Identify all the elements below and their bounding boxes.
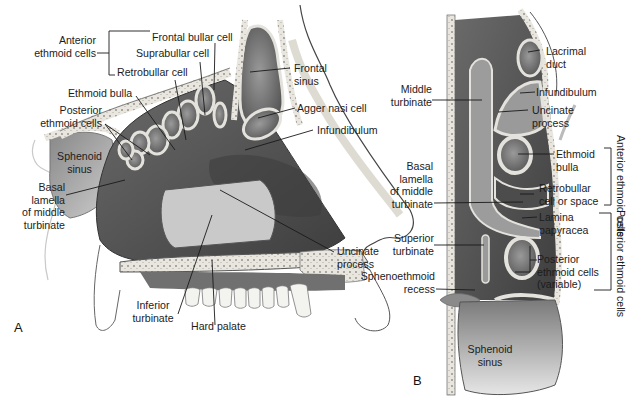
- label-line: turbinate: [376, 198, 433, 211]
- label-line: papyracea: [539, 224, 588, 237]
- panel-letter-a: A: [14, 320, 23, 335]
- label-line: Middle: [378, 83, 432, 96]
- label-posterior-ethmoid-cells-b: Posterior ethmoid cells (variable): [537, 253, 599, 291]
- label-line: Inferior: [118, 299, 188, 312]
- label-line: ethmoid cells: [30, 117, 102, 130]
- label-line: duct: [546, 58, 586, 71]
- label-line: of middle: [376, 185, 433, 198]
- label-lacrimal-duct: Lacrimal duct: [546, 45, 586, 70]
- label-line: sinus: [294, 75, 327, 88]
- label-line: Ethmoid: [556, 148, 595, 161]
- label-inferior-turbinate: Inferior turbinate: [118, 299, 188, 324]
- label-uncinate-process-b: Uncinate process: [532, 104, 574, 129]
- label-line: (variable): [537, 278, 599, 291]
- label-suprabullar-cell: Suprabullar cell: [136, 47, 209, 60]
- label-line: Posterior: [30, 104, 102, 117]
- label-line: ethmoid cells: [28, 47, 96, 60]
- label-agger-nasi-cell: Agger nasi cell: [297, 102, 367, 115]
- label-line: recess: [340, 283, 435, 296]
- label-line: process: [337, 258, 379, 271]
- label-ethmoid-bulla-b: Ethmoid bulla: [556, 148, 595, 173]
- label-retrobullar-cell-b: Retrobullar cell or space: [539, 182, 598, 207]
- label-line: Uncinate: [532, 104, 574, 117]
- label-ethmoid-bulla-a: Ethmoid bulla: [68, 87, 132, 100]
- label-sphenoid-sinus-a: Sphenoid sinus: [52, 150, 107, 175]
- label-line: bulla: [556, 161, 595, 174]
- label-line: Superior: [380, 232, 434, 245]
- label-line: Lacrimal: [546, 45, 586, 58]
- label-middle-turbinate: Middle turbinate: [378, 83, 432, 108]
- label-line: Anterior: [28, 34, 96, 47]
- label-line: Basal: [8, 181, 65, 194]
- label-line: lamella: [376, 173, 433, 186]
- label-line: of middle: [8, 206, 65, 219]
- label-line: Frontal: [294, 62, 327, 75]
- label-superior-turbinate: Superior turbinate: [380, 232, 434, 257]
- label-line: process: [532, 117, 574, 130]
- label-uncinate-process-a: Uncinate process: [337, 245, 379, 270]
- label-line: Lamina: [539, 211, 588, 224]
- label-line: Sphenoid: [460, 343, 520, 356]
- label-line: ethmoid cells: [537, 266, 599, 279]
- label-frontal-bullar-cell: Frontal bullar cell: [152, 31, 233, 44]
- label-infundibulum-a: Infundibulum: [317, 124, 378, 137]
- label-line: sinus: [52, 163, 107, 176]
- label-line: turbinate: [8, 219, 65, 232]
- label-infundibulum-b: Infundibulum: [536, 86, 597, 99]
- label-lamina-papyracea: Lamina papyracea: [539, 211, 588, 236]
- label-frontal-sinus: Frontal sinus: [294, 62, 327, 87]
- label-sphenoethmoid-recess: Sphenoethmoid recess: [340, 270, 435, 295]
- label-line: cell or space: [539, 195, 598, 208]
- label-line: turbinate: [118, 312, 188, 325]
- label-line: sinus: [460, 356, 520, 369]
- label-line: Retrobullar: [539, 182, 598, 195]
- label-retrobullar-cell: Retrobullar cell: [117, 66, 188, 79]
- label-sphenoid-sinus-b: Sphenoid sinus: [460, 343, 520, 368]
- label-hard-palate: Hard palate: [191, 320, 246, 333]
- label-basal-lamella-a: Basal lamella of middle turbinate: [8, 181, 65, 231]
- panel-letter-b: B: [413, 373, 422, 388]
- label-posterior-ethmoid-cells-a: Posterior ethmoid cells: [30, 104, 102, 129]
- label-line: Basal: [376, 160, 433, 173]
- label-line: Sphenoid: [52, 150, 107, 163]
- label-basal-lamella-b: Basal lamella of middle turbinate: [376, 160, 433, 210]
- anterior-ethmoid-group-label: Anterior ethmoid cells: [28, 34, 96, 59]
- label-line: Posterior: [537, 253, 599, 266]
- label-line: turbinate: [378, 96, 432, 109]
- label-line: Uncinate: [337, 245, 379, 258]
- label-line: Sphenoethmoid: [340, 270, 435, 283]
- label-line: lamella: [8, 194, 65, 207]
- bracket-label-posterior-ethmoid-cells: Posterior ethmoid cells: [614, 210, 627, 296]
- bracket-label-anterior-ethmoid-cells: Anterior ethmoid cells: [614, 135, 627, 215]
- label-line: turbinate: [380, 245, 434, 258]
